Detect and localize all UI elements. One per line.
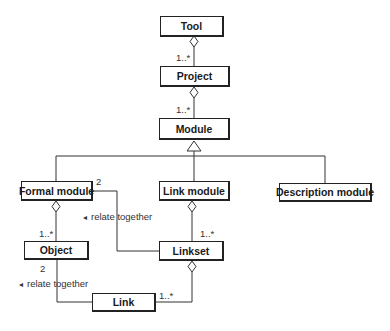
multiplicity-formal-linkset: 2 (96, 176, 101, 187)
direction-arrow-icon: ◂ (83, 213, 87, 222)
class-project: Project (160, 66, 230, 87)
class-link-module: Link module (159, 181, 230, 201)
multiplicity-linkset-link: 1..* (159, 290, 173, 301)
class-module: Module (159, 118, 230, 140)
direction-arrow-icon: ◂ (19, 280, 23, 289)
class-object: Object (24, 241, 89, 260)
class-formal-module: Formal module (21, 181, 93, 201)
multiplicity-tool-project: 1..* (176, 52, 190, 63)
generalization-triangle-icon (187, 141, 201, 151)
multiplicity-formal-object: 1..* (39, 228, 53, 239)
association-label-object-link: ◂relate together (19, 278, 88, 289)
class-linkset: Linkset (159, 241, 224, 261)
diamond-icon (188, 261, 196, 272)
diamond-icon (190, 87, 198, 98)
multiplicity-linkmodule-linkset: 1..* (200, 228, 214, 239)
association-label-formal-linkset: ◂relate together (83, 211, 152, 222)
class-tool: Tool (160, 16, 224, 37)
class-link: Link (92, 293, 156, 312)
diamond-icon (190, 36, 198, 47)
uml-diagram: Tool Project Module Formal module Link m… (0, 0, 390, 331)
class-description-module: Description module (279, 183, 372, 202)
diamond-icon (52, 201, 60, 212)
multiplicity-object-link: 2 (40, 263, 45, 274)
diamond-icon (188, 201, 196, 212)
multiplicity-project-module: 1..* (176, 104, 190, 115)
